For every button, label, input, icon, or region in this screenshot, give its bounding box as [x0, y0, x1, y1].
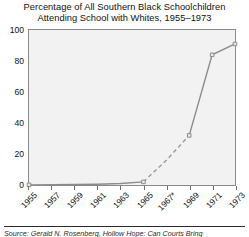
source-note: Source: Gerald N. Rosenberg, Hollow Hope… — [4, 229, 249, 237]
data-line-group — [29, 30, 235, 185]
x-tick-mark-1973 — [236, 186, 237, 190]
data-point-marker — [210, 53, 214, 57]
x-tick-label-1965: 1965 — [134, 190, 154, 210]
x-axis: 1955195719591961196319651967*19691971197… — [28, 190, 236, 230]
data-line-solid-early — [29, 182, 143, 185]
x-tick-label-1967: 1967* — [155, 190, 178, 213]
chart-title-line-2: Attending School with Whites, 1955–1973 — [0, 13, 249, 24]
data-point-markers — [27, 42, 237, 186]
x-tick-label-1971: 1971 — [204, 190, 224, 210]
x-tick-label-1955: 1955 — [19, 190, 39, 210]
x-tick-label-1961: 1961 — [88, 190, 108, 210]
chart-title: Percentage of All Southern Black Schoolc… — [0, 2, 249, 24]
x-tick-label-1959: 1959 — [65, 190, 85, 210]
data-point-marker — [233, 42, 237, 46]
y-tick-label-40: 40 — [0, 118, 24, 128]
source-divider — [4, 226, 245, 227]
data-point-marker — [142, 180, 146, 184]
y-tick-label-20: 20 — [0, 149, 24, 159]
y-tick-label-0: 0 — [0, 180, 24, 190]
y-tick-label-100: 100 — [0, 25, 24, 35]
y-tick-label-60: 60 — [0, 87, 24, 97]
data-point-marker — [187, 134, 191, 138]
chart-title-line-1: Percentage of All Southern Black Schoolc… — [0, 2, 249, 13]
x-tick-label-1963: 1963 — [111, 190, 131, 210]
x-tick-label-1973: 1973 — [227, 190, 247, 210]
data-line-dashed-estimated — [143, 135, 189, 182]
plot-area — [28, 29, 236, 186]
y-tick-label-80: 80 — [0, 56, 24, 66]
y-axis: 100 80 60 40 20 0 — [0, 29, 24, 186]
data-line-solid-late — [189, 44, 235, 135]
x-tick-label-1957: 1957 — [42, 190, 62, 210]
chart-figure: Percentage of All Southern Black Schoolc… — [0, 0, 249, 237]
x-tick-label-1969: 1969 — [181, 190, 201, 210]
